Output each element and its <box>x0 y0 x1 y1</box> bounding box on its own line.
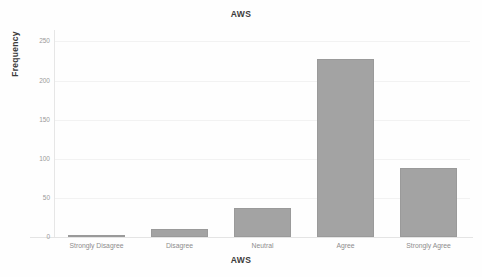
chart-title: AWS <box>0 9 482 19</box>
x-category-label: Strongly Disagree <box>55 240 138 252</box>
y-tick-label: 50 <box>24 195 50 202</box>
y-tick-label: 250 <box>24 38 50 45</box>
x-category-label: Neutral <box>221 240 304 252</box>
bar-slot <box>400 32 456 237</box>
y-tick-label: 150 <box>24 117 50 124</box>
bar[interactable] <box>234 208 290 237</box>
plot-area <box>55 32 470 237</box>
x-category-label: Strongly Agree <box>387 240 470 252</box>
y-tick-label: 200 <box>24 78 50 85</box>
bar-slot <box>234 32 290 237</box>
bar[interactable] <box>68 235 124 237</box>
bar-slot <box>151 32 207 237</box>
y-axis-tick-labels: 050100150200250 <box>22 32 50 237</box>
x-axis-line <box>30 237 473 238</box>
bar-series <box>55 32 470 237</box>
y-tick-label: 0 <box>24 234 50 241</box>
bar[interactable] <box>400 168 456 237</box>
x-axis-category-labels: Strongly DisagreeDisagreeNeutralAgreeStr… <box>55 240 470 254</box>
y-tick-label: 100 <box>24 156 50 163</box>
bar-slot <box>68 32 124 237</box>
x-category-label: Agree <box>304 240 387 252</box>
y-axis-title: Frequency <box>10 14 20 94</box>
bar[interactable] <box>151 229 207 237</box>
bar[interactable] <box>317 59 373 237</box>
bar-chart-figure: AWS Frequency 050100150200250 Strongly D… <box>0 0 482 277</box>
bar-slot <box>317 32 373 237</box>
x-axis-title: AWS <box>0 255 482 265</box>
x-category-label: Disagree <box>138 240 221 252</box>
